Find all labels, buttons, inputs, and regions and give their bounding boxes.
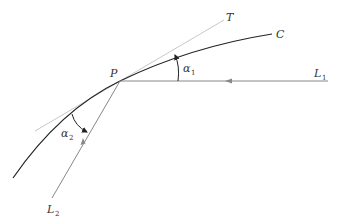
angle-alpha2-arc	[72, 114, 87, 132]
line-l1-label: L	[313, 67, 321, 80]
angle-alpha1-subscript: 1	[191, 69, 195, 77]
line-l2-subscript: 2	[55, 210, 59, 218]
line-l1-subscript: 1	[322, 74, 326, 82]
angle-alpha2-subscript: 2	[69, 134, 73, 142]
curve-c	[13, 34, 272, 178]
curve-c-label: C	[276, 28, 285, 41]
tangent-line	[35, 20, 224, 131]
l1-direction-arrow-icon	[225, 79, 232, 84]
diagram-canvas: P T C L 1 L 2 α 1 α 2	[0, 0, 338, 224]
angle-alpha1-label: α	[183, 62, 191, 75]
point-p-label: P	[109, 67, 118, 80]
tangent-t-label: T	[226, 11, 235, 24]
reflection-diagram: P T C L 1 L 2 α 1 α 2	[0, 0, 338, 224]
angle-alpha2-label: α	[61, 127, 69, 140]
line-l2-label: L	[46, 203, 54, 216]
angle-alpha1-arc	[175, 55, 179, 81]
